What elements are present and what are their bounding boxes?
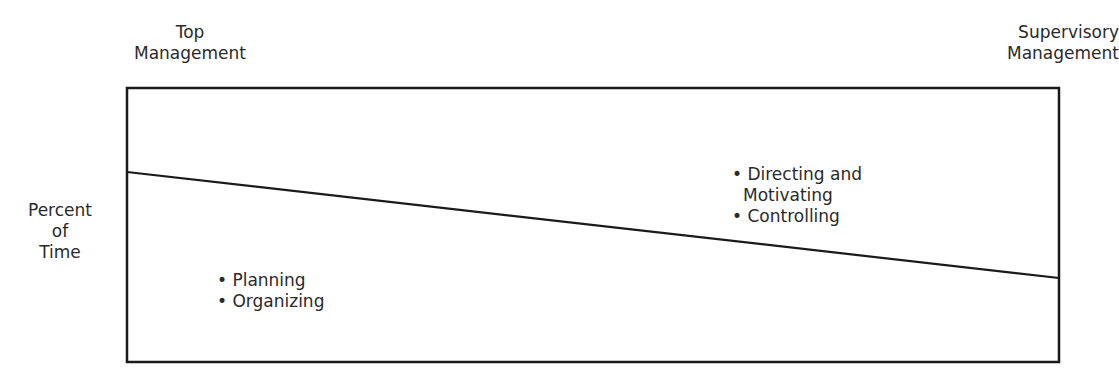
upper-right-functions: • Directing and Motivating • Controlling bbox=[732, 164, 862, 227]
function-planning: • Planning bbox=[217, 270, 324, 291]
function-directing: • Directing and bbox=[732, 164, 862, 185]
function-organizing: • Organizing bbox=[217, 291, 324, 312]
lower-left-functions: • Planning • Organizing bbox=[217, 270, 324, 312]
function-controlling: • Controlling bbox=[732, 206, 862, 227]
function-motivating: Motivating bbox=[732, 185, 862, 206]
division-line bbox=[127, 172, 1059, 278]
diagram-canvas bbox=[0, 0, 1119, 372]
